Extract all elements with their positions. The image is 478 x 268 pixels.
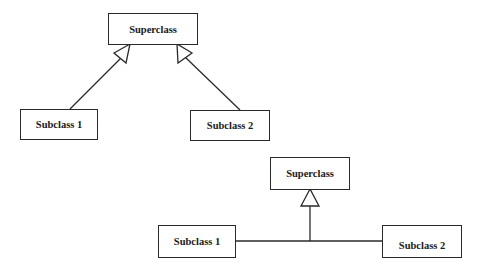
subclass-2-box-top: Subclass 2 bbox=[190, 110, 270, 141]
generalization-arrow-left bbox=[70, 44, 130, 109]
subclass-1-label: Subclass 1 bbox=[174, 236, 220, 247]
superclass-box-bottom: Superclass bbox=[270, 157, 350, 190]
subclass-2-box-bottom: Subclass 2 bbox=[382, 225, 462, 258]
generalization-arrow-right bbox=[177, 44, 240, 110]
shared-generalization-arrow bbox=[236, 189, 382, 241]
subclass-1-box-bottom: Subclass 1 bbox=[158, 225, 236, 258]
subclass-2-label: Subclass 2 bbox=[207, 120, 253, 131]
subclass-2-label: Subclass 2 bbox=[399, 240, 445, 251]
superclass-label: Superclass bbox=[129, 24, 177, 35]
subclass-1-box-top: Subclass 1 bbox=[20, 109, 98, 140]
superclass-label: Superclass bbox=[286, 168, 334, 179]
subclass-1-label: Subclass 1 bbox=[36, 119, 82, 130]
superclass-box-top: Superclass bbox=[108, 13, 198, 45]
